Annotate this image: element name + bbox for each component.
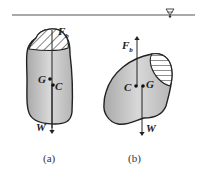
panel-b: Fb C G W (b)	[104, 38, 172, 165]
buoyancy-label-b: Fb	[121, 39, 133, 54]
panel-a: Fb G C W (a)	[27, 25, 73, 165]
center-of-gravity-dot-a	[48, 77, 52, 81]
buoyancy-center-label-b: C	[124, 81, 132, 93]
weight-label-b: W	[146, 122, 157, 134]
caption-a: (a)	[43, 152, 56, 165]
buoyancy-stability-diagram: Fb G C W (a) Fb C G W (b)	[0, 0, 204, 179]
caption-b: (b)	[128, 152, 141, 165]
triangle-down-icon	[166, 9, 174, 18]
center-of-buoyancy-dot-b	[134, 84, 138, 88]
center-of-gravity-dot-b	[141, 84, 145, 88]
buoyancy-center-label-a: C	[55, 80, 63, 92]
water-surface	[12, 9, 195, 18]
weight-label-a: W	[36, 121, 47, 133]
gravity-center-label-b: G	[146, 78, 154, 90]
gravity-center-label-a: G	[38, 73, 46, 85]
